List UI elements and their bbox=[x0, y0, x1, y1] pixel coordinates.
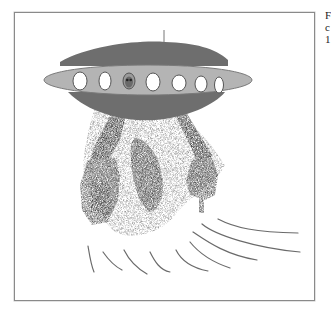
alien-window bbox=[123, 73, 135, 89]
ufo-drawing bbox=[0, 0, 331, 311]
caption-line: 1 bbox=[325, 33, 331, 45]
side-caption: F c 1 bbox=[325, 9, 331, 45]
ufo-saucer bbox=[44, 30, 252, 120]
caption-line: F bbox=[325, 9, 331, 21]
caption-line: c bbox=[325, 21, 331, 33]
